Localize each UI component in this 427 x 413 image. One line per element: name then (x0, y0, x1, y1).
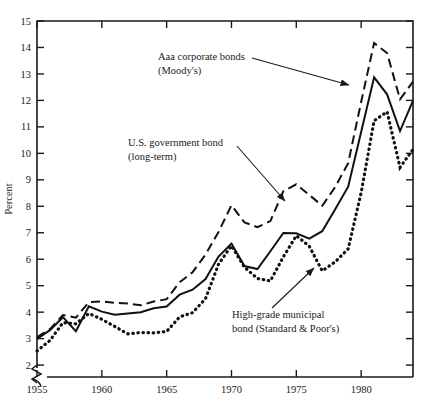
y-tick-label: 14 (21, 42, 32, 53)
plot-frame (37, 21, 413, 377)
annot-muni-leader-line (272, 268, 314, 308)
y-tick-label: 9 (26, 174, 31, 185)
y-tick-label: 6 (26, 254, 31, 265)
annot-usgov-line-1: U.S. government bond (128, 137, 224, 148)
annot-muni-line-1: High-grade municipal (232, 309, 325, 320)
annot-aaa-line-1: Aaa corporate bonds (158, 51, 245, 62)
y-tick-label: 15 (21, 16, 32, 27)
cut-off-caption-text (8, 0, 308, 6)
x-tick-label: 1960 (91, 384, 112, 395)
y-tick-label: 7 (26, 227, 31, 238)
x-tick-label: 1970 (221, 384, 242, 395)
annot-aaa: Aaa corporate bonds(Moody's) (158, 51, 349, 85)
y-axis-title: Percent (3, 183, 14, 215)
y-tick-label: 11 (21, 121, 31, 132)
series-line-1 (37, 43, 413, 337)
figure-container: 2345678910111213141519551960196519701975… (0, 0, 427, 413)
x-tick-label: 1980 (351, 384, 372, 395)
bond-interest-rates-chart: 2345678910111213141519551960196519701975… (0, 0, 427, 413)
y-tick-label: 3 (26, 333, 31, 344)
y-tick-label: 8 (26, 201, 31, 212)
annot-usgov-leader-line (237, 146, 285, 201)
y-tick-label: 4 (26, 307, 32, 318)
y-tick-label: 12 (21, 95, 32, 106)
x-tick-label: 1965 (156, 384, 177, 395)
y-tick-label: 2 (26, 360, 31, 371)
y-tick-label: 5 (26, 280, 31, 291)
annot-muni-line-2: bond (Standard & Poor's) (232, 323, 340, 335)
annot-muni: High-grade municipalbond (Standard & Poo… (232, 268, 340, 335)
annot-aaa-line-2: (Moody's) (158, 65, 202, 77)
annot-usgov: U.S. government bond(long-term) (128, 137, 285, 201)
y-tick-label: 10 (21, 148, 32, 159)
x-tick-label: 1955 (27, 384, 48, 395)
annot-aaa-leader-line (252, 58, 349, 85)
y-tick-label: 13 (21, 69, 32, 80)
x-tick-label: 1975 (286, 384, 307, 395)
annot-usgov-line-2: (long-term) (128, 151, 177, 163)
